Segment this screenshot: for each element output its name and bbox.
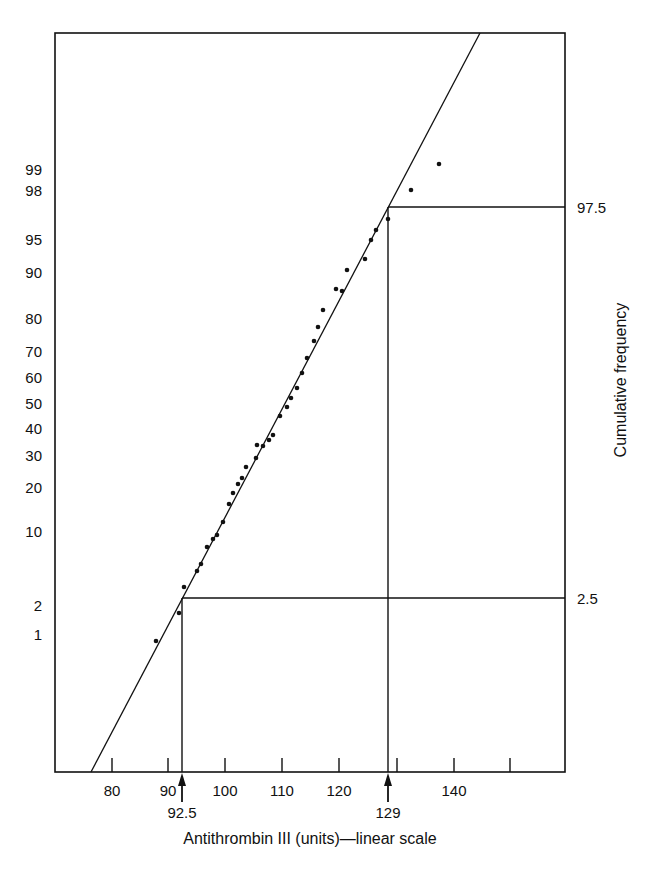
y-axis-title: Cumulative frequency [612,303,629,458]
x-tick-label: 90 [160,782,177,799]
data-point [295,386,300,391]
data-point [182,585,187,590]
data-point [154,639,159,644]
y-tick-label: 99 [25,161,42,178]
x-tick-label: 100 [212,782,237,799]
data-point [227,502,232,507]
data-point [261,444,266,449]
probability-plot: 8090100110120140 99989590807060504030201… [0,0,656,869]
data-point [211,537,216,542]
data-point [369,238,374,243]
ref-high-label: 97.5 [577,199,606,216]
arrow-up-icon [178,773,186,786]
arrow-up-icon [384,773,392,786]
arrow-low-label: 92.5 [167,804,196,821]
data-point [285,405,290,410]
x-axis-tick-labels: 8090100110120140 [104,782,467,799]
y-tick-label: 95 [25,231,42,248]
y-tick-label: 90 [25,264,42,281]
plot-frame [55,33,565,772]
data-point [254,456,259,461]
ref-low-label: 2.5 [577,590,598,607]
y-tick-label: 60 [25,369,42,386]
y-tick-label: 30 [25,447,42,464]
data-point [386,217,391,222]
data-point [240,476,245,481]
y-tick-label: 98 [25,182,42,199]
data-point [334,287,339,292]
y-tick-label: 70 [25,343,42,360]
data-point [205,545,210,550]
data-point [236,482,241,487]
data-point [199,562,204,567]
fitted-regression-line [91,33,480,772]
data-point [177,611,182,616]
y-tick-label: 80 [25,310,42,327]
data-point [231,491,236,496]
data-points [154,162,442,644]
x-axis-title: Antithrombin III (units)—linear scale [183,830,437,847]
data-point [215,533,220,538]
data-point [289,396,294,401]
data-point [345,268,350,273]
x-axis-ticks [112,758,510,772]
x-tick-label: 110 [270,782,294,799]
arrow-high-label: 129 [375,804,400,821]
x-tick-label: 80 [104,782,121,799]
data-point [221,520,226,525]
y-tick-label: 2 [34,597,42,614]
data-point [437,162,442,167]
data-point [244,465,249,470]
data-point [300,371,305,376]
y-tick-label: 50 [25,395,42,412]
data-point [255,443,260,448]
y-tick-label: 20 [25,479,42,496]
data-point [312,339,317,344]
x-tick-label: 140 [441,782,466,799]
data-point [278,414,283,419]
y-tick-label: 40 [25,420,42,437]
x-tick-label: 120 [326,782,351,799]
data-point [409,188,414,193]
data-point [363,257,368,262]
data-point [305,356,310,361]
data-point [195,569,200,574]
y-tick-label: 1 [34,626,42,643]
data-point [340,289,345,294]
data-point [321,308,326,313]
data-point [316,325,321,330]
data-point [374,228,379,233]
y-axis-tick-labels: 99989590807060504030201021 [25,161,42,643]
y-tick-label: 10 [25,523,42,540]
data-point [267,438,272,443]
data-point [271,433,276,438]
